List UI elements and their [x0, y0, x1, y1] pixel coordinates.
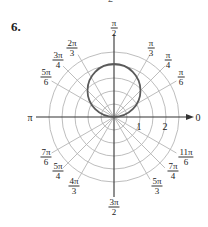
label-pi-over-3: π3	[148, 39, 155, 58]
label-2pi-over-3: 2π3	[66, 39, 77, 58]
arrowhead	[186, 114, 194, 120]
label-11pi-over-6: 11π6	[178, 148, 193, 167]
label-5pi-over-3: 5π3	[151, 177, 162, 196]
label-pi-over-2: π2	[111, 19, 118, 38]
label-7pi-over-4: 7π4	[167, 162, 178, 181]
label-4pi-over-3: 4π3	[68, 177, 79, 196]
label-3pi-over-2: 3π2	[108, 198, 119, 217]
label-5pi-over-4: 5π4	[52, 162, 63, 181]
label-pi: π	[27, 112, 32, 123]
label-pi-over-4: π4	[165, 51, 172, 70]
label-zero: 0	[196, 112, 201, 123]
label-7pi-over-6: 7π6	[40, 148, 51, 167]
label-5pi-over-6: 5π6	[40, 68, 51, 87]
radial-tick-2: 2	[163, 121, 168, 132]
radial-tick-1: 1	[137, 121, 142, 132]
label-3pi-over-4: 3π4	[52, 51, 63, 70]
label-pi-over-6: π6	[178, 68, 185, 87]
